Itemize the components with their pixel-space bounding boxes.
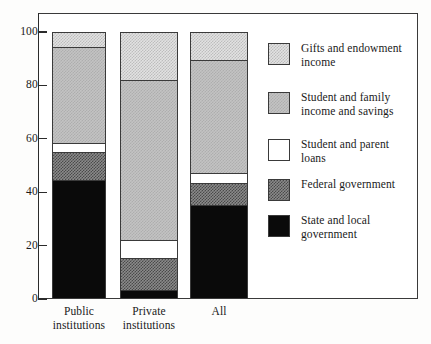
- bar-segment: [190, 205, 248, 299]
- y-axis-tick-label-wrap: 80: [0, 79, 38, 91]
- legend-label-line: State and local: [301, 214, 370, 228]
- bar-segment: [190, 32, 248, 60]
- legend-label-line: Federal government: [301, 178, 395, 192]
- bar-segment: [120, 240, 178, 258]
- stacked-bar: [52, 32, 106, 299]
- legend-swatch: [268, 43, 290, 65]
- y-axis-tick-label: 40: [4, 186, 38, 198]
- y-axis-tick-label: 20: [4, 240, 38, 252]
- legend-item: Student and familyincome and savings: [268, 91, 394, 119]
- legend-label: Student and familyincome and savings: [301, 91, 394, 119]
- legend-label-line: income and savings: [301, 105, 394, 119]
- legend-label: Student and parentloans: [301, 138, 389, 166]
- legend-label-line: government: [301, 228, 370, 242]
- x-axis-label-line: All: [166, 305, 272, 319]
- y-axis-tick-label-wrap: 60: [0, 133, 38, 145]
- y-axis-tick-label: 100: [4, 26, 38, 38]
- y-axis-tick-label-wrap: 20: [0, 240, 38, 252]
- y-axis-line: [38, 13, 39, 300]
- legend-item: State and localgovernment: [268, 214, 370, 242]
- y-axis-tick-label-wrap: 100: [0, 26, 38, 38]
- bar-segment: [52, 47, 106, 143]
- legend-label: Gifts and endowmentincome: [301, 42, 402, 70]
- legend-item: Student and parentloans: [268, 138, 389, 166]
- y-axis-tick: [38, 298, 47, 299]
- bar-segment: [190, 173, 248, 183]
- legend-label-line: loans: [301, 152, 389, 166]
- y-axis-tick: [38, 245, 47, 246]
- legend-label-line: Student and family: [301, 91, 394, 105]
- bar-segment: [120, 290, 178, 299]
- bar-segment: [120, 32, 178, 80]
- y-axis-tick-label-wrap: 40: [0, 186, 38, 198]
- stacked-bar: [120, 32, 178, 299]
- y-axis-tick: [38, 138, 47, 139]
- bar-segment: [120, 80, 178, 240]
- legend-item: Federal government: [268, 178, 395, 201]
- legend-label-line: income: [301, 56, 402, 70]
- legend-swatch: [268, 215, 290, 237]
- y-axis-tick-label-wrap: 0: [0, 293, 38, 305]
- bar-segment: [190, 60, 248, 173]
- bar-segment: [190, 183, 248, 205]
- x-axis-label: All: [166, 305, 272, 319]
- legend-label: State and localgovernment: [301, 214, 370, 242]
- stacked-bar: [190, 32, 248, 299]
- legend-label-line: Gifts and endowment: [301, 42, 402, 56]
- y-axis-tick-label: 0: [4, 293, 38, 305]
- chart-figure: 020406080100 PublicinstitutionsPrivatein…: [0, 0, 431, 344]
- y-axis-tick-label: 60: [4, 133, 38, 145]
- bar-segment: [52, 143, 106, 152]
- legend-label-line: Student and parent: [301, 138, 389, 152]
- legend-swatch: [268, 179, 290, 201]
- bar-segment: [120, 258, 178, 290]
- y-axis-tick: [38, 192, 47, 193]
- x-axis-label-line: institutions: [96, 319, 202, 333]
- legend-swatch: [268, 92, 290, 114]
- y-axis-tick: [38, 31, 47, 32]
- legend-label: Federal government: [301, 178, 395, 192]
- bar-segment: [52, 32, 106, 47]
- bar-segment: [52, 152, 106, 180]
- legend-swatch: [268, 139, 290, 161]
- bar-segment: [52, 180, 106, 299]
- legend-item: Gifts and endowmentincome: [268, 42, 402, 70]
- y-axis-tick-label: 80: [4, 79, 38, 91]
- y-axis-tick: [38, 85, 47, 86]
